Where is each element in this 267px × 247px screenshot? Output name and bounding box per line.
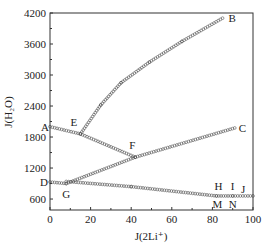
point-label-a: A (41, 121, 49, 133)
series-g-f-c (65, 127, 236, 185)
point-label-m: M (212, 198, 222, 210)
x-axis-label: J(2Li⁺) (135, 230, 168, 243)
y-tick-label: 3600 (24, 38, 47, 50)
y-tick-label: 2400 (24, 100, 47, 112)
phase-diagram-chart: 020406080100600120018002400300036004200 … (0, 0, 267, 247)
x-tick-label: 100 (245, 213, 262, 225)
point-label-i: I (231, 180, 235, 192)
y-tick-label: 1200 (24, 162, 47, 174)
point-label-h: H (214, 180, 222, 192)
axis-ticks: 020406080100600120018002400300036004200 (24, 7, 262, 225)
plot-frame (50, 13, 253, 210)
y-tick-label: 4200 (24, 7, 47, 19)
x-tick-label: 40 (126, 213, 138, 225)
y-tick-label: 3000 (24, 69, 47, 81)
series-h-i-j (215, 195, 254, 198)
x-tick-label: 60 (166, 213, 178, 225)
plot-content (49, 17, 255, 198)
x-tick-label: 0 (47, 213, 53, 225)
series-e-b (79, 17, 224, 136)
x-tick-label: 80 (207, 213, 219, 225)
point-label-b: B (229, 12, 236, 24)
series-a-e-f (49, 125, 137, 158)
x-tick-label: 20 (85, 213, 97, 225)
series-g-h (65, 180, 218, 197)
point-label-e: E (70, 116, 77, 128)
y-tick-label: 1800 (24, 131, 47, 143)
point-label-j: J (241, 183, 246, 195)
point-label-g: G (62, 188, 70, 200)
point-label-c: C (239, 122, 246, 134)
y-axis-label: J(H₂O) (2, 96, 15, 128)
point-label-n: N (229, 198, 237, 210)
y-tick-label: 600 (30, 193, 47, 205)
point-label-d: D (40, 176, 48, 188)
point-label-f: F (129, 139, 135, 151)
